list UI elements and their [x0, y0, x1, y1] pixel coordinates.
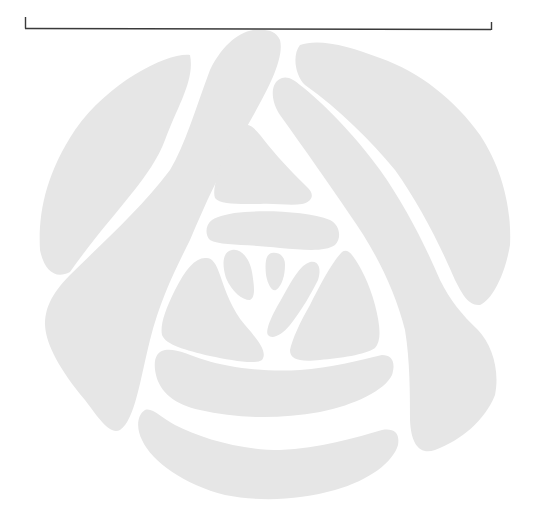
petal-inner-bud-left [224, 250, 254, 300]
rose-emblem [40, 30, 511, 499]
petal-lower-band [155, 350, 394, 417]
petal-inner-bud-middle [266, 253, 285, 290]
bracket-baseline [25, 29, 491, 30]
petal-center-bar [206, 211, 339, 250]
petal-bottom-band [138, 409, 398, 499]
rose-emblem-figure [0, 0, 559, 524]
bracket-line [25, 17, 492, 30]
